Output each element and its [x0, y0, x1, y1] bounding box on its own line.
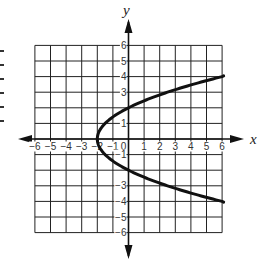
y-tick-label: −1: [115, 149, 127, 160]
cropped-text-fragment: [0, 92, 4, 94]
x-tick-label: 6: [219, 141, 225, 152]
y-axis-label: y: [121, 2, 130, 18]
y-tick-label: 6: [121, 40, 127, 51]
x-tick-label: −4: [60, 141, 72, 152]
x-tick-label: −5: [45, 141, 57, 152]
x-tick-label: −3: [76, 141, 88, 152]
coordinate-plane: −6−5−4−3−2−1012345665431−1−3−4−5−6 x y: [0, 0, 271, 267]
cropped-text-fragment: [0, 120, 4, 122]
x-axis-right-arrow-icon: [230, 135, 244, 143]
x-tick-label: 4: [188, 141, 194, 152]
x-tick-label: −6: [29, 141, 41, 152]
x-tick-label: 1: [141, 141, 147, 152]
y-tick-label: −4: [115, 196, 127, 207]
y-tick-label: 1: [121, 118, 127, 129]
x-axis-label: x: [249, 131, 257, 147]
y-tick-label: 5: [121, 56, 127, 67]
y-tick-label: −3: [115, 180, 127, 191]
cropped-text-fragment: [0, 50, 4, 52]
x-tick-label: 5: [204, 141, 210, 152]
y-tick-label: 4: [121, 71, 127, 82]
y-tick-label: −5: [115, 212, 127, 223]
axes: [18, 19, 244, 259]
x-tick-label: 2: [157, 141, 163, 152]
cropped-text-fragment: [0, 106, 4, 108]
y-tick-label: 3: [121, 87, 127, 98]
y-axis-up-arrow-icon: [125, 19, 133, 33]
cropped-text-fragment: [0, 78, 4, 80]
x-tick-label: 3: [173, 141, 179, 152]
cropped-text-fragment: [0, 64, 4, 66]
y-tick-label: −6: [115, 227, 127, 238]
y-axis-down-arrow-icon: [125, 245, 133, 259]
